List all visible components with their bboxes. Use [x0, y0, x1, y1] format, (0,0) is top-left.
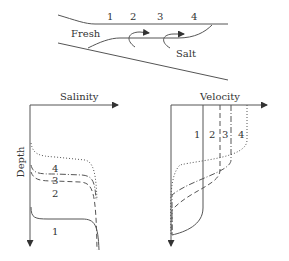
- velocity-curve-label-3: 3: [222, 129, 228, 140]
- salinity-curve-3: [31, 165, 96, 200]
- salinity-curve-2: [31, 172, 97, 250]
- salinity-curve-1: [31, 207, 99, 250]
- station-label-2: 2: [130, 11, 136, 22]
- salinity-axis-label: Salinity: [60, 91, 99, 102]
- velocity-curve-label-2: 2: [209, 129, 215, 140]
- depth-axis-label: Depth: [15, 146, 26, 177]
- estuary-diagram: 1 2 3 4 Fresh Salt Salinity Depth 4 3 2 …: [0, 0, 289, 261]
- salinity-curve-label-1: 1: [52, 226, 58, 237]
- velocity-curve-label-4: 4: [238, 129, 244, 140]
- station-label-3: 3: [157, 11, 163, 22]
- velocity-axis-label: Velocity: [199, 91, 240, 102]
- salinity-curve-4: [31, 143, 97, 200]
- station-label-4: 4: [191, 11, 197, 22]
- velocity-panel: Velocity 1 2 3 4: [171, 91, 267, 246]
- estuary-surface-line: [58, 15, 228, 24]
- salt-label: Salt: [176, 48, 196, 59]
- velocity-curve-2: [172, 105, 220, 235]
- velocity-curve-1: [172, 105, 203, 235]
- salinity-curve-label-4: 4: [52, 163, 58, 174]
- velocity-curve-label-1: 1: [194, 129, 200, 140]
- estuary-bottom-line: [58, 43, 228, 80]
- circulation-arrow-2: [164, 34, 184, 48]
- estuary-schematic: 1 2 3 4 Fresh Salt: [58, 11, 228, 80]
- halocline-interface: [88, 25, 212, 48]
- velocity-curve-4: [171, 105, 247, 235]
- salinity-curve-label-3: 3: [52, 175, 58, 186]
- fresh-label: Fresh: [71, 28, 101, 39]
- circulation-arrow-1: [129, 32, 149, 47]
- salinity-curve-label-2: 2: [52, 188, 58, 199]
- station-label-1: 1: [107, 11, 113, 22]
- salinity-panel: Salinity Depth 4 3 2 1: [15, 91, 118, 250]
